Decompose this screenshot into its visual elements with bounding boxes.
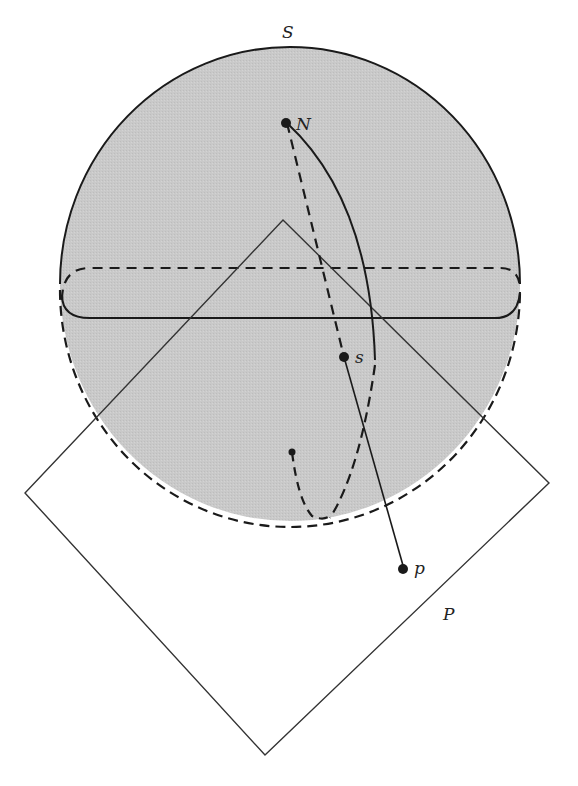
plane-point-p [398,564,408,574]
label-s: s [355,347,364,367]
label-N: N [295,114,312,134]
lower-point [289,449,296,456]
label-p: p [414,558,425,578]
stereographic-diagram: S N s p P [0,0,578,786]
label-P: P [442,604,455,624]
sphere-point-s [339,352,349,362]
label-S: S [282,22,294,42]
north-pole-point [281,118,291,128]
